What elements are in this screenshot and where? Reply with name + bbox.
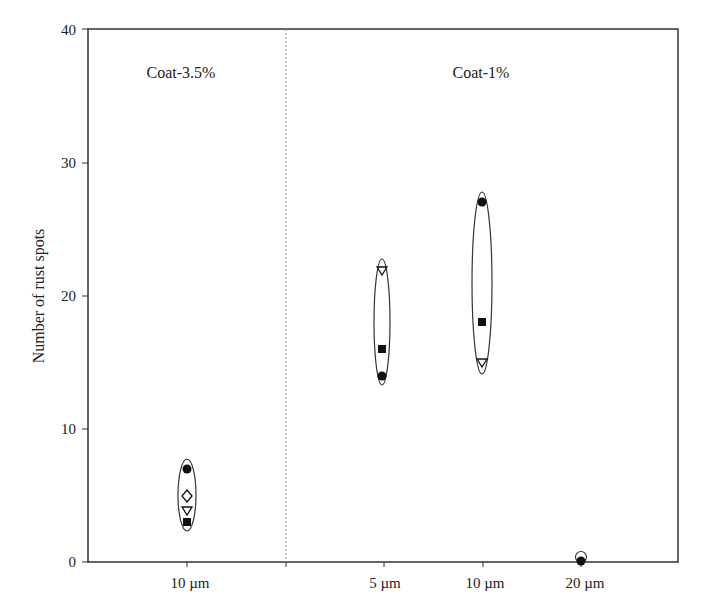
open-triangle-marker <box>477 359 487 367</box>
cluster-coat35-10um <box>178 459 196 531</box>
x-tick-label: 10 µm <box>465 575 504 591</box>
group-label-coat-3-5: Coat-3.5% <box>147 64 216 81</box>
y-tick-label: 30 <box>61 155 76 171</box>
y-tick-label: 20 <box>61 288 76 304</box>
y-tick-label: 10 <box>61 421 76 437</box>
x-tick-label: 10 µm <box>170 575 209 591</box>
x-tick-label: 5 µm <box>369 575 401 591</box>
open-triangle-marker <box>182 507 192 515</box>
filled-circle-marker <box>577 557 586 566</box>
filled-square-marker <box>183 518 191 526</box>
group-label-coat-1: Coat-1% <box>453 64 510 81</box>
y-tick-label: 40 <box>61 22 76 38</box>
scatter-chart: 0 10 20 30 40 Number of rust spots 10 µm… <box>0 0 701 612</box>
plot-frame <box>88 29 678 562</box>
cluster-coat1-5um <box>374 259 390 385</box>
cluster-coat1-20um <box>576 552 587 566</box>
x-axis: 10 µm 5 µm 10 µm 20 µm <box>170 562 604 591</box>
open-triangle-marker <box>377 267 387 275</box>
filled-circle-marker <box>478 198 487 207</box>
filled-circle-marker <box>183 465 192 474</box>
y-axis-title: Number of rust spots <box>30 229 48 364</box>
cluster-ellipse <box>472 192 492 374</box>
cluster-ellipse <box>374 259 390 385</box>
open-diamond-marker <box>182 490 192 502</box>
filled-square-marker <box>378 345 386 353</box>
filled-square-marker <box>478 318 486 326</box>
y-tick-label: 0 <box>69 554 77 570</box>
filled-circle-marker <box>378 372 387 381</box>
x-tick-label: 20 µm <box>565 575 604 591</box>
cluster-coat1-10um <box>472 192 492 374</box>
y-axis: 0 10 20 30 40 <box>61 22 88 570</box>
